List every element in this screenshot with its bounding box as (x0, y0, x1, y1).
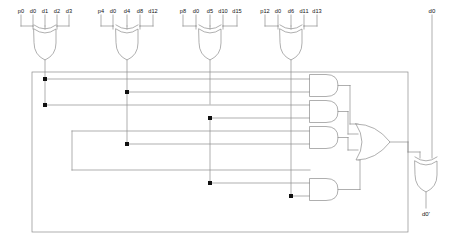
input-label-p0-4: d3 (66, 8, 72, 15)
input-label-p8-3: d10 (218, 8, 228, 15)
circuit-diagram (0, 0, 451, 241)
wire-junctions (43, 77, 293, 198)
input-label-p4-3: d8 (137, 8, 143, 15)
routing-boundary (32, 72, 408, 232)
input-label-p12-1: d0 (275, 8, 281, 15)
xor-group-p4 (101, 15, 153, 92)
signal-bus-lines (45, 79, 310, 196)
input-label-p8-4: d15 (232, 8, 242, 15)
input-label-p4-2: d4 (124, 8, 130, 15)
input-label-p0-1: d0 (30, 8, 36, 15)
and-gate-4 (310, 160, 360, 201)
input-label-p12-4: d13 (312, 8, 322, 15)
and-gate-3 (310, 127, 358, 151)
output-stage (415, 15, 437, 208)
input-label-p0-3: d2 (54, 8, 60, 15)
input-label-p0-2: d1 (42, 8, 48, 15)
input-label-p8-2: d5 (207, 8, 213, 15)
input-label-p0-0: p0 (18, 8, 24, 15)
or-gate-1 (356, 124, 420, 160)
xor-group-p12 (265, 15, 317, 196)
input-label-p4-0: p4 (98, 8, 104, 15)
output-label-d0-prime: d0' (422, 211, 430, 218)
input-label-p8-1: d0 (193, 8, 199, 15)
data-input-label-d0: d0 (429, 8, 436, 15)
xor-group-p0 (21, 15, 69, 79)
input-label-p12-0: p12 (260, 8, 270, 15)
input-label-p4-1: d0 (110, 8, 116, 15)
input-label-p8-0: p8 (180, 8, 186, 15)
input-label-p12-3: d11 (299, 8, 308, 15)
xor-group-p8 (183, 15, 237, 104)
input-label-p12-2: d6 (288, 8, 294, 15)
input-label-p4-4: d12 (148, 8, 158, 15)
